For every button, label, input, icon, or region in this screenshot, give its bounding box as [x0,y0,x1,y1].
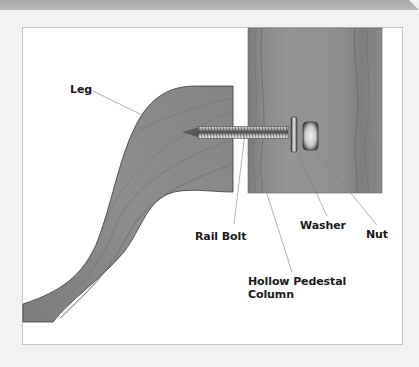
label-column-line2: Column [248,289,294,301]
label-washer: Washer [300,220,346,232]
label-rail-bolt: Rail Bolt [195,231,246,243]
washer [291,117,297,152]
leader-rail-bolt [234,133,245,224]
leg [23,86,233,322]
nut [303,122,318,150]
label-column-line1: Hollow Pedestal [248,276,346,288]
assembly-illustration [0,0,419,367]
label-nut: Nut [366,229,388,241]
leader-leg [93,91,148,118]
rail-bolt [182,127,288,139]
hollow-pedestal-column [248,28,382,193]
label-leg: Leg [70,84,92,96]
